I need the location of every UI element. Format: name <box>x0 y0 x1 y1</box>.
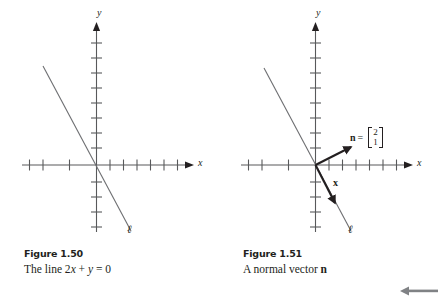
vector-label-n: n <box>350 132 356 143</box>
caption-prefix: The line 2 <box>24 263 71 275</box>
caption-prefix: A normal vector <box>243 263 321 275</box>
line-label-ell: ℓ <box>348 224 353 235</box>
vector-label-x: x <box>333 178 338 188</box>
equals-sign: = <box>358 132 364 143</box>
column-vector-matrix: 2 1 <box>365 127 386 148</box>
matrix-cell-row2: 1 <box>373 138 378 148</box>
line-label-ell: ℓ <box>127 224 132 235</box>
coordinate-plot-1-51 <box>223 0 446 248</box>
caption-title: Figure 1.51 <box>243 248 438 260</box>
caption-text: The line 2x + y = 0 <box>24 262 219 276</box>
coordinate-plot-1-50 <box>0 0 223 248</box>
figure-caption-1-51: Figure 1.51 A normal vector n <box>243 248 438 276</box>
caption-suffix: = 0 <box>93 263 111 275</box>
vector-n-arrow <box>316 147 352 165</box>
caption-title: Figure 1.50 <box>24 248 219 260</box>
y-axis <box>312 22 319 232</box>
caption-text: A normal vector n <box>243 262 438 276</box>
y-axis-label: y <box>316 8 320 18</box>
vector-label-n-group: n = 2 1 <box>350 127 386 148</box>
y-axis-label: y <box>97 8 101 18</box>
bracket-right-icon <box>379 127 383 148</box>
x-axis-label: x <box>198 158 202 168</box>
caption-plus: + <box>76 263 88 275</box>
caption-vec-n: n <box>321 263 327 275</box>
figure-panel-1-50: y x ℓ Figure 1.50 The line 2x + y = 0 <box>0 0 223 305</box>
x-axis <box>241 161 413 168</box>
figure-caption-1-50: Figure 1.50 The line 2x + y = 0 <box>24 248 219 276</box>
x-axis <box>22 161 194 168</box>
line-ell <box>264 68 351 231</box>
left-arrow-icon <box>400 285 444 297</box>
y-axis <box>93 22 100 232</box>
x-axis-label: x <box>417 158 421 168</box>
figure-panel-1-51: y x ℓ x n = 2 1 Figure 1.51 A normal vec… <box>223 0 446 305</box>
line-ell <box>43 66 131 231</box>
